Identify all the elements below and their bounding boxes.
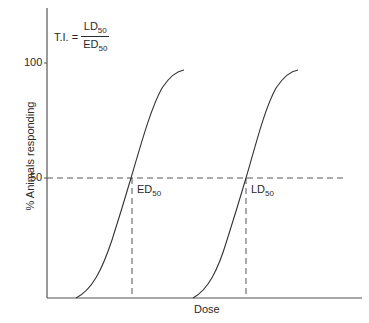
ed50-label: ED50 [137,183,161,198]
y-axis-label: % Animals responding [24,86,36,226]
x-axis-label: Dose [194,303,220,315]
ti-denominator: ED50 [81,37,109,53]
ti-label: T.I. = [54,31,78,43]
ti-numerator: LD50 [81,20,109,37]
therapeutic-index-formula: T.I. = LD50 ED50 [54,20,109,53]
ld50-label: LD50 [251,183,274,198]
ed-curve [76,70,184,298]
y-tick-label-100: 100 [24,56,42,68]
